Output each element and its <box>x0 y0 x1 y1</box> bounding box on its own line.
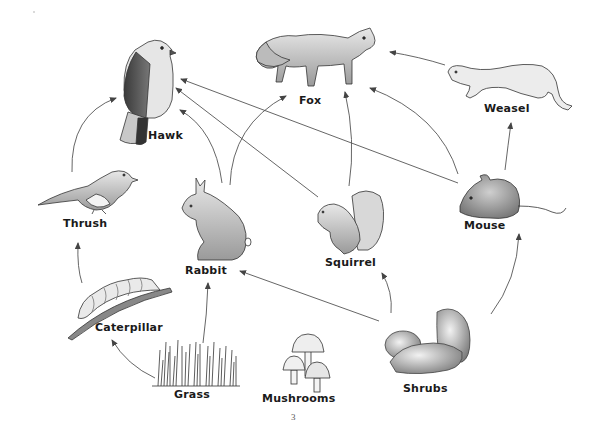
shrubs-illustration <box>385 309 470 374</box>
label-squirrel: Squirrel <box>325 256 376 269</box>
label-hawk: Hawk <box>148 129 183 142</box>
fox-illustration <box>256 28 375 86</box>
label-grass: Grass <box>174 388 210 401</box>
arrow-rabbit-to-hawk <box>180 110 222 183</box>
scan-speck <box>33 11 34 12</box>
arrow-caterpillar-to-thrush <box>78 243 82 283</box>
label-mushrooms: Mushrooms <box>262 392 336 405</box>
mouse-illustration <box>460 175 566 219</box>
label-thrush: Thrush <box>63 217 107 230</box>
label-mouse: Mouse <box>464 219 505 232</box>
arrow-squirrel-to-fox <box>345 92 352 186</box>
label-rabbit: Rabbit <box>185 264 227 277</box>
page-number: 3 <box>291 412 296 422</box>
arrow-grass-to-rabbit <box>203 283 208 343</box>
squirrel-illustration <box>318 191 384 254</box>
arrow-shrubs-to-squirrel <box>382 273 391 313</box>
label-caterpillar: Caterpillar <box>95 321 163 334</box>
grass-illustration <box>152 340 240 386</box>
thrush-illustration <box>38 171 138 214</box>
arrow-mouse-to-weasel <box>505 123 511 170</box>
arrow-shrubs-to-rabbit <box>240 271 379 321</box>
mushrooms-illustration <box>283 334 330 392</box>
arrow-grass-to-caterpillar <box>112 340 155 378</box>
rabbit-illustration <box>182 178 251 260</box>
label-weasel: Weasel <box>484 102 530 115</box>
label-fox: Fox <box>299 94 321 107</box>
arrow-mouse-to-fox <box>370 88 458 174</box>
arrow-rabbit-to-fox <box>230 96 286 185</box>
label-shrubs: Shrubs <box>403 382 448 395</box>
arrow-thrush-to-hawk <box>72 98 116 172</box>
arrow-weasel-to-fox <box>390 52 445 65</box>
arrow-shrubs-to-mouse <box>491 234 519 314</box>
